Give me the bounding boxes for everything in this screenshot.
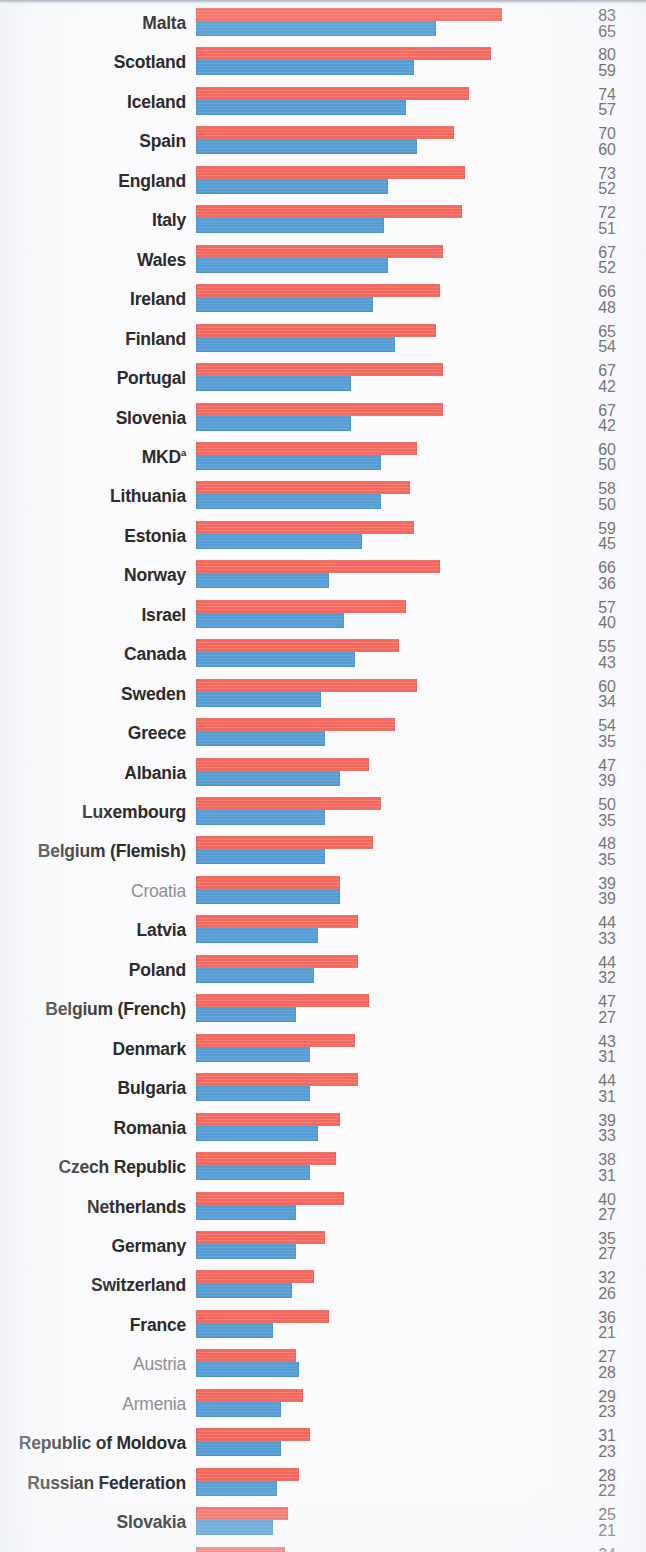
country-label: Denmark [0,1039,186,1060]
bar-series-top [196,1231,325,1244]
country-label: MKDa [0,447,186,468]
bar-series-top [196,363,443,376]
value-top: 25 [566,1507,616,1523]
value-bottom: 27 [566,1010,616,1026]
value-top: 35 [566,1231,616,1247]
value-labels: 4835 [566,836,616,867]
value-top: 66 [566,560,616,576]
country-label: Belgium (French) [0,999,186,1020]
value-labels: 4739 [566,758,616,789]
value-top: 28 [566,1468,616,1484]
value-bottom: 39 [566,891,616,907]
value-labels: 6554 [566,324,616,355]
country-label: Romania [0,1118,186,1139]
country-label: Lithuania [0,486,186,507]
bar-series-bottom [196,613,344,628]
value-labels: 4331 [566,1034,616,1065]
value-bottom: 34 [566,694,616,710]
value-labels: 2419 [566,1547,616,1552]
bar-series-bottom [196,297,373,312]
bar-series-top [196,1152,336,1165]
bar-chart: Malta8365Scotland8059Iceland7457Spain706… [0,0,646,1552]
bar-series-bottom [196,1402,281,1417]
bar-series-top [196,955,358,968]
value-top: 60 [566,679,616,695]
chart-row: MKDa6050 [0,438,646,477]
country-label: France [0,1315,186,1336]
bar-series-bottom [196,968,314,983]
bar-series-bottom [196,1047,310,1062]
value-bottom: 51 [566,221,616,237]
value-top: 44 [566,915,616,931]
bar-series-top [196,836,373,849]
value-top: 55 [566,639,616,655]
chart-row: Albania4739 [0,754,646,793]
bar-series-top [196,679,417,692]
chart-row: Canada5543 [0,635,646,674]
value-labels: 7251 [566,205,616,236]
value-bottom: 23 [566,1404,616,1420]
value-labels: 2521 [566,1507,616,1538]
value-top: 83 [566,8,616,24]
bar-series-top [196,166,465,179]
chart-row: Czech Republic3831 [0,1148,646,1187]
value-bottom: 36 [566,576,616,592]
bar-series-bottom [196,1323,273,1338]
value-top: 66 [566,284,616,300]
value-labels: 6742 [566,403,616,434]
value-labels: 3226 [566,1270,616,1301]
value-labels: 5543 [566,639,616,670]
value-bottom: 21 [566,1325,616,1341]
country-label: Albania [0,763,186,784]
value-top: 74 [566,87,616,103]
value-labels: 7060 [566,126,616,157]
bar-series-top [196,758,369,771]
value-labels: 4431 [566,1073,616,1104]
value-top: 67 [566,363,616,379]
bar-series-bottom [196,455,381,470]
country-label: Sweden [0,684,186,705]
chart-row: Republic of Moldova3123 [0,1424,646,1463]
value-bottom: 50 [566,457,616,473]
value-bottom: 54 [566,339,616,355]
country-label: Croatia [0,881,186,902]
chart-row: Slovenia6742 [0,399,646,438]
chart-row: Latvia4433 [0,911,646,950]
value-labels: 3933 [566,1113,616,1144]
bar-series-top [196,324,436,337]
country-label: Ireland [0,289,186,310]
value-top: 60 [566,442,616,458]
value-bottom: 39 [566,773,616,789]
value-labels: 4027 [566,1192,616,1223]
chart-row: Denmark4331 [0,1030,646,1069]
country-label: Malta [0,13,186,34]
country-label: Germany [0,1236,186,1257]
chart-row: Scotland8059 [0,43,646,82]
value-top: 58 [566,481,616,497]
bar-series-bottom [196,928,318,943]
chart-row: Israel5740 [0,596,646,635]
value-bottom: 27 [566,1246,616,1262]
value-labels: 3939 [566,876,616,907]
chart-row: Malta8365 [0,4,646,43]
bar-series-bottom [196,416,351,431]
value-top: 44 [566,1073,616,1089]
value-top: 59 [566,521,616,537]
value-labels: 6050 [566,442,616,473]
chart-row: Spain7060 [0,122,646,161]
value-labels: 5740 [566,600,616,631]
value-bottom: 28 [566,1365,616,1381]
value-labels: 6648 [566,284,616,315]
country-label: Czech Republic [0,1157,186,1178]
country-label: Slovakia [0,1512,186,1533]
value-labels: 8365 [566,8,616,39]
chart-row: Sweden6034 [0,675,646,714]
country-label: Austria [0,1354,186,1375]
bar-series-bottom [196,376,351,391]
value-bottom: 52 [566,181,616,197]
country-label: Canada [0,644,186,665]
value-labels: 5035 [566,797,616,828]
value-bottom: 32 [566,970,616,986]
chart-row: Ireland6648 [0,280,646,319]
bar-series-bottom [196,1481,277,1496]
